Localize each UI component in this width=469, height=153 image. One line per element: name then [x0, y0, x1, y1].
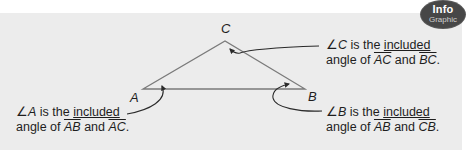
angle-icon: ∠ [326, 105, 338, 119]
note-angle-b: ∠B is the included angle of AB and CB. [326, 105, 439, 135]
note-a-line-2: angle of AB and AC. [16, 120, 129, 135]
note-b-line-2: angle of AB and CB. [326, 120, 439, 135]
arrow-to-angle-c [230, 46, 319, 53]
vertex-label-c: C [221, 22, 230, 35]
note-c-line-2: angle of AC and BC. [326, 53, 440, 68]
note-a-line-1: ∠A is the included [16, 105, 129, 120]
vertex-label-a: A [130, 91, 139, 104]
angle-icon: ∠ [16, 105, 28, 119]
vertex-label-b: B [308, 90, 317, 103]
note-angle-c: ∠C is the included angle of AC and BC. [326, 38, 440, 68]
note-b-line-1: ∠B is the included [326, 105, 439, 120]
angle-icon: ∠ [326, 38, 338, 52]
note-c-line-1: ∠C is the included [326, 38, 440, 53]
note-angle-a: ∠A is the included angle of AB and AC. [16, 105, 129, 135]
